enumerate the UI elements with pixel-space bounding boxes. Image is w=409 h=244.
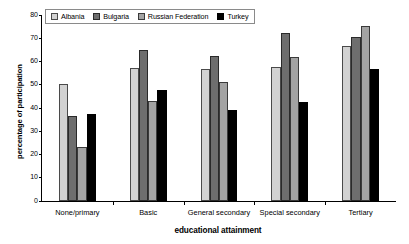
legend-item: Turkey	[217, 12, 248, 21]
x-axis-tick-label: Basic	[139, 208, 157, 217]
bar	[59, 84, 68, 201]
y-axis-title: percentage of participation	[15, 27, 24, 197]
x-axis-tick-mark	[254, 201, 255, 205]
x-axis-tick-mark	[184, 201, 185, 205]
y-axis-tick-label: 20	[18, 150, 38, 157]
y-axis-tick-mark	[39, 15, 42, 16]
bar	[130, 68, 139, 201]
y-axis-tick-mark	[39, 61, 42, 62]
legend-swatch-icon	[93, 13, 100, 20]
bar-chart: percentage of participation 010203040506…	[0, 0, 409, 244]
x-axis-tick-label: Special secondary	[260, 208, 320, 217]
x-axis-tick-label: None/primary	[55, 208, 99, 217]
legend-item: Albania	[51, 12, 84, 21]
legend-swatch-icon	[138, 13, 145, 20]
legend-label: Albania	[61, 12, 84, 21]
y-axis-tick-mark	[39, 201, 42, 202]
bar	[361, 26, 370, 201]
y-axis-tick-label: 80	[18, 11, 38, 18]
x-axis-tick-mark	[113, 201, 114, 205]
bar	[351, 37, 360, 201]
y-axis-tick-mark	[39, 154, 42, 155]
y-axis-tick-label: 50	[18, 80, 38, 87]
y-axis-tick-label: 30	[18, 127, 38, 134]
bar	[68, 116, 77, 201]
legend-item: Russian Federation	[138, 12, 209, 21]
y-axis-tick-mark	[39, 131, 42, 132]
bar	[87, 114, 96, 201]
legend-label: Russian Federation	[148, 12, 209, 21]
legend-label: Bulgaria	[103, 12, 129, 21]
bar	[219, 82, 228, 202]
bar	[139, 50, 148, 201]
bar	[342, 46, 351, 201]
y-axis-tick-label: 40	[18, 104, 38, 111]
plot-area: 01020304050607080None/primaryBasicGenera…	[41, 15, 396, 202]
bar	[148, 101, 157, 201]
bar	[281, 33, 290, 201]
legend-item: Bulgaria	[93, 12, 129, 21]
y-axis-tick-label: 60	[18, 57, 38, 64]
bar	[77, 147, 86, 201]
x-axis-tick-label: General secondary	[188, 208, 250, 217]
y-axis-tick-label: 10	[18, 173, 38, 180]
y-axis-tick-mark	[39, 108, 42, 109]
y-axis-tick-mark	[39, 177, 42, 178]
x-axis-tick-mark	[325, 201, 326, 205]
y-axis-tick-mark	[39, 84, 42, 85]
legend-label: Turkey	[227, 12, 248, 21]
y-axis-tick-label: 70	[18, 34, 38, 41]
bar	[228, 110, 237, 201]
chart-legend: AlbaniaBulgariaRussian FederationTurkey	[45, 9, 255, 24]
bar	[370, 69, 379, 201]
y-axis-tick-label: 0	[18, 197, 38, 204]
legend-swatch-icon	[51, 13, 58, 20]
x-axis-title: educational attainment	[41, 226, 395, 235]
x-axis-tick-label: Tertiary	[348, 208, 372, 217]
y-axis-tick-mark	[39, 38, 42, 39]
bar	[299, 102, 308, 201]
legend-swatch-icon	[217, 13, 224, 20]
bar	[201, 69, 210, 201]
bar	[210, 56, 219, 201]
bar	[157, 90, 166, 201]
bar	[271, 67, 280, 201]
bar	[290, 57, 299, 201]
